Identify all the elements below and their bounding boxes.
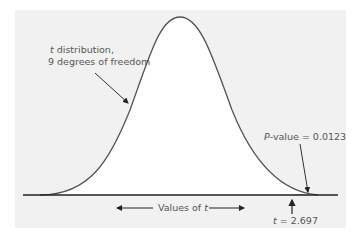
curve-label-pointer <box>95 73 128 103</box>
curve-label-line2: 9 degrees of freedom <box>48 56 150 68</box>
curve-label-line1: t distribution, <box>50 44 114 56</box>
pvalue-text: -value = 0.0123 <box>270 131 346 142</box>
pvalue-pointer <box>300 144 308 192</box>
t-variable: t <box>204 202 208 213</box>
pvalue-label: P-value = 0.0123 <box>264 131 346 143</box>
tstat-value: = 2.697 <box>277 215 318 226</box>
axis-label-text: Values of <box>158 202 204 213</box>
curve-label-text: distribution, <box>54 44 114 55</box>
axis-label: Values of t <box>158 202 208 214</box>
tstat-label: t = 2.697 <box>273 215 318 227</box>
